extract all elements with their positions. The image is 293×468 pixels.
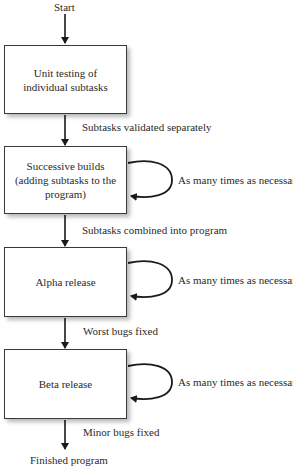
transition-label-combined: Subtasks combined into program	[82, 224, 227, 237]
start-label: Start	[54, 1, 75, 14]
step-label: Unit testing of individual subtasks	[14, 66, 118, 94]
loop-arrow-beta	[128, 364, 172, 399]
step-alpha-release: Alpha release	[4, 247, 127, 317]
loop-arrow-alpha	[128, 261, 172, 297]
step-successive-builds: Successive builds (adding subtasks to th…	[4, 146, 127, 214]
step-label: Successive builds (adding subtasks to th…	[7, 159, 125, 201]
step-unit-testing: Unit testing of individual subtasks	[4, 45, 127, 114]
step-beta-release: Beta release	[4, 349, 127, 419]
loop-label-builds: As many times as necessary	[178, 174, 293, 187]
transition-label-worst-bugs: Worst bugs fixed	[83, 325, 158, 338]
loop-arrow-builds	[128, 161, 172, 197]
transition-label-minor-bugs: Minor bugs fixed	[83, 426, 159, 439]
step-label: Alpha release	[31, 275, 99, 289]
transition-label-validated: Subtasks validated separately	[82, 121, 212, 134]
end-label: Finished program	[30, 454, 108, 467]
loop-label-beta: As many times as necessary	[178, 376, 293, 389]
step-label: Beta release	[35, 377, 96, 391]
loop-label-alpha: As many times as necessary	[178, 274, 293, 287]
